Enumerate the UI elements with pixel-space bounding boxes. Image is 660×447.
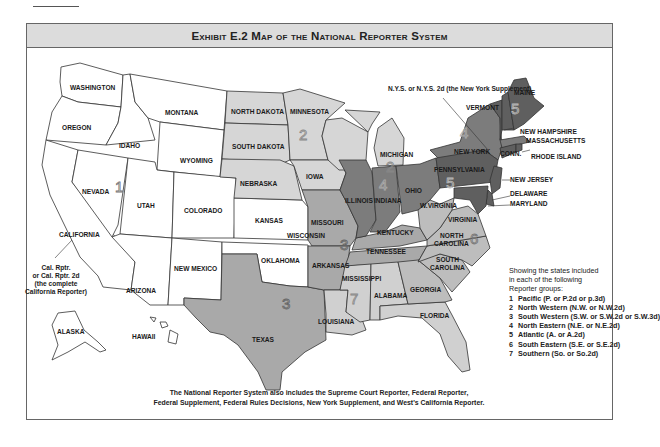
label-virginia: VIRGINIA	[448, 216, 478, 223]
footnote-line-1: The National Reporter System also includ…	[0, 388, 638, 398]
legend-number: 2	[509, 303, 518, 312]
legend-intro-1: Showing the states included	[509, 266, 660, 275]
label-arkansas: ARKANSAS	[312, 262, 350, 269]
label-new-mexico: NEW MEXICO	[174, 265, 217, 272]
label-minnesota: MINNESOTA	[290, 108, 329, 115]
label-washington: WASHINGTON	[70, 84, 116, 91]
region-number-3-arkansas: 3	[340, 236, 348, 253]
legend-label: South Eastern (S.E. or S.E.2d)	[518, 340, 620, 349]
legend-label: Southern (So. or So.2d)	[518, 349, 598, 358]
label-ohio: OHIO	[405, 187, 422, 194]
label-nevada: NEVADA	[82, 188, 110, 195]
legend-label: Atlantic (A. or A.2d)	[518, 330, 585, 339]
label-connecticut: CONN.	[500, 150, 521, 157]
label-kansas: KANSAS	[255, 217, 283, 224]
region-number-4-indiana: 4	[379, 176, 387, 193]
label-idaho: IDAHO	[119, 142, 140, 149]
legend-number: 3	[509, 312, 518, 321]
legend-item-north-eastern: 4North Eastern (N.E. or N.E.2d)	[509, 321, 660, 330]
label-michigan: MICHIGAN	[380, 151, 414, 158]
legend-intro-2: in each of the following	[509, 275, 660, 284]
legend-intro-3: Reporter groups:	[509, 284, 660, 293]
label-kentucky: KENTUCKY	[377, 229, 414, 236]
de-callout-line	[492, 196, 510, 200]
legend-item-south-eastern: 6South Eastern (S.E. or S.E.2d)	[509, 340, 660, 349]
region-number-5-pennsylvania: 5	[446, 174, 454, 191]
label-rhode-island: RHODE ISLAND	[531, 153, 581, 160]
label-california: CALIFORNIA	[59, 231, 100, 238]
legend-number: 6	[509, 340, 518, 349]
label-oklahoma: OKLAHOMA	[261, 257, 300, 264]
reporter-groups-legend: Showing the states included in each of t…	[509, 266, 660, 358]
label-texas: TEXAS	[252, 336, 275, 343]
label-alaska: ALASKA	[57, 328, 85, 335]
label-massachusetts: MASSACHUSETTS	[526, 137, 586, 144]
region-number-2-minnesota: 2	[299, 126, 307, 143]
label-arizona: ARIZONA	[126, 287, 156, 294]
label-utah: UTAH	[137, 202, 155, 209]
legend-label: Pacific (P. or P.2d or p.3d)	[518, 294, 605, 303]
legend-item-southern: 7Southern (So. or So.2d)	[509, 349, 660, 358]
label-wisconsin: WISCONSIN	[287, 232, 325, 239]
label-new-jersey: NEW JERSEY	[510, 176, 554, 183]
legend-item-south-western: 3South Western (S.W. or S.W.2d or S.W.3d…	[509, 312, 660, 321]
label-delaware: DELAWARE	[510, 190, 548, 197]
ri-callout-line	[522, 150, 530, 152]
region-number-5-new-england: 5	[511, 100, 519, 117]
label-north-dakota: NORTH DAKOTA	[231, 108, 284, 115]
region-number-6: 6	[470, 230, 478, 247]
state-wyoming[interactable]	[157, 122, 224, 177]
legend-label: North Western (N.W. or N.W.2d)	[518, 303, 625, 312]
legend-item-pacific: 1Pacific (P. or P.2d or p.3d)	[509, 294, 660, 303]
label-hawaii: HAWAII	[132, 333, 156, 340]
state-colorado[interactable]	[172, 172, 236, 238]
cal-callout-line-2: or Cal. Rptr. 2d	[33, 272, 80, 280]
label-tennessee: TENNESSEE	[366, 248, 407, 255]
california-reporter-callout: Cal. Rptr. or Cal. Rptr. 2d (the complet…	[25, 264, 87, 296]
label-pennsylvania: PENNSYLVANIA	[434, 166, 485, 173]
label-wyoming: WYOMING	[180, 157, 213, 164]
label-colorado: COLORADO	[184, 207, 222, 214]
label-florida: FLORIDA	[420, 312, 450, 319]
label-west-virginia: W.VIRGINIA	[420, 202, 457, 209]
label-iowa: IOWA	[306, 173, 324, 180]
state-alaska[interactable]	[52, 311, 106, 360]
footnote: The National Reporter System also includ…	[0, 388, 638, 408]
cal-callout-line	[55, 240, 72, 258]
label-alabama: ALABAMA	[374, 292, 408, 299]
label-nebraska: NEBRASKA	[240, 180, 278, 187]
footnote-line-2: Federal Supplement, Federal Rules Decisi…	[0, 398, 638, 408]
legend-number: 5	[509, 330, 518, 339]
legend-item-atlantic: 5Atlantic (A. or A.2d)	[509, 330, 660, 339]
cal-callout-line-1: Cal. Rptr.	[42, 264, 71, 272]
label-montana: MONTANA	[165, 109, 198, 116]
label-oregon: OREGON	[62, 124, 92, 131]
legend-label: North Eastern (N.E. or N.E.2d)	[518, 321, 620, 330]
label-vermont: VERMONT	[466, 104, 499, 111]
nys-callout-text: N.Y.S. or N.Y.S. 2d (the New York Supple…	[388, 85, 531, 93]
region-number-4-new-york: 4	[460, 124, 468, 141]
legend-number: 1	[509, 294, 518, 303]
region-number-3-texas: 3	[282, 295, 290, 312]
cal-callout-line-4: California Reporter)	[25, 288, 87, 296]
label-louisiana: LOUISIANA	[318, 318, 355, 325]
label-south-dakota: SOUTH DAKOTA	[232, 143, 285, 150]
label-missouri: MISSOURI	[311, 219, 344, 226]
cal-callout-line-3: (the complete	[35, 280, 78, 288]
label-new-hampshire: NEW HAMPSHIRE	[520, 128, 577, 135]
label-indiana: INDIANA	[374, 197, 402, 204]
label-georgia: GEORGIA	[410, 286, 441, 293]
label-mississippi: MISSISSIPPI	[342, 275, 381, 282]
legend-number: 7	[509, 349, 518, 358]
label-maryland: MARYLAND	[510, 200, 548, 207]
legend-number: 4	[509, 321, 518, 330]
label-new-york: NEW YORK	[454, 148, 490, 155]
legend-item-north-western: 2North Western (N.W. or N.W.2d)	[509, 303, 660, 312]
region-number-2-michigan: 2	[386, 158, 394, 175]
legend-label: South Western (S.W. or S.W.2d or S.W.3d)	[518, 312, 660, 321]
label-illinois: ILLINOIS	[345, 197, 373, 204]
region-number-7: 7	[350, 290, 358, 307]
region-number-1: 1	[115, 178, 123, 195]
